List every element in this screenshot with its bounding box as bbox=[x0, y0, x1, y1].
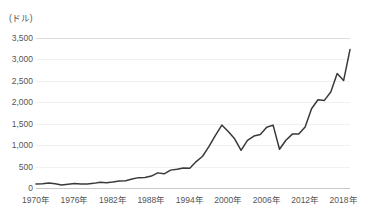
y-tick-label: 2,000 bbox=[1, 97, 33, 107]
y-tick-label: 0 bbox=[1, 183, 33, 193]
x-axis-tick-labels: 1970年1976年1982年1988年1994年2000年2006年2012年… bbox=[0, 193, 368, 213]
x-tick-label: 1976年 bbox=[60, 193, 88, 205]
y-axis-tick-labels: 05001,0001,5002,0002,5003,0003,500 bbox=[0, 0, 33, 217]
x-tick-label: 1982年 bbox=[99, 193, 127, 205]
x-tick-label: 2018年 bbox=[330, 193, 358, 205]
y-tick-label: 3,500 bbox=[1, 33, 33, 43]
x-tick-label: 1994年 bbox=[176, 193, 204, 205]
y-tick-label: 500 bbox=[1, 162, 33, 172]
series-line-index bbox=[36, 50, 350, 186]
x-tick-label: 2006年 bbox=[253, 193, 281, 205]
y-tick-label: 2,500 bbox=[1, 76, 33, 86]
x-tick-label: 1970年 bbox=[22, 193, 50, 205]
y-tick-label: 1,000 bbox=[1, 140, 33, 150]
y-tick-label: 3,000 bbox=[1, 54, 33, 64]
x-tick-label: 1988年 bbox=[137, 193, 165, 205]
y-tick-label: 1,500 bbox=[1, 119, 33, 129]
plot-area bbox=[36, 38, 350, 188]
x-tick-label: 2000年 bbox=[214, 193, 242, 205]
line-chart: (ドル) 05001,0001,5002,0002,5003,0003,500 … bbox=[0, 0, 368, 217]
x-axis-line bbox=[36, 188, 350, 189]
series-line-layer bbox=[36, 38, 350, 188]
x-tick-label: 2012年 bbox=[291, 193, 319, 205]
